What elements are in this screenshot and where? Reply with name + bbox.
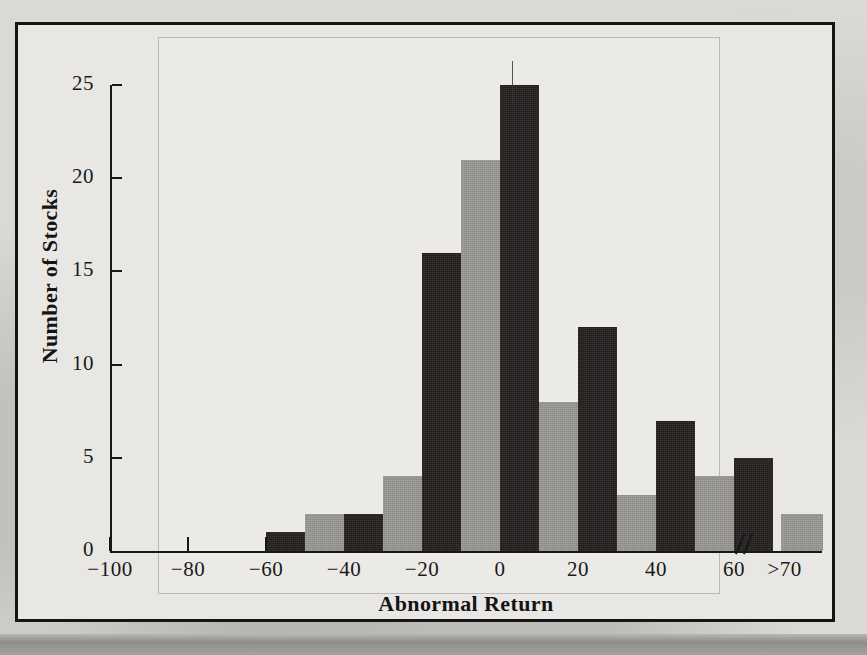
histogram-bar bbox=[305, 514, 344, 551]
x-axis-tick-label: >70 bbox=[740, 557, 830, 582]
figure-frame: 0510152025 −100−80−60−40−200204060>70 Nu… bbox=[15, 22, 835, 622]
scan-streak-artifact bbox=[512, 61, 513, 103]
histogram-bar bbox=[266, 532, 305, 551]
y-axis-tick-label: 25 bbox=[34, 71, 94, 96]
y-axis-line bbox=[110, 85, 112, 552]
x-axis-tick bbox=[265, 537, 267, 551]
x-axis-tick-label: 0 bbox=[455, 557, 545, 582]
x-axis-tick-label: 20 bbox=[533, 557, 623, 582]
histogram-plot: 0510152025 −100−80−60−40−200204060>70 Nu… bbox=[18, 25, 832, 619]
histogram-bar bbox=[344, 514, 383, 551]
x-axis-tick-label: −40 bbox=[299, 557, 389, 582]
histogram-bar bbox=[461, 160, 500, 551]
y-axis-tick-label: 5 bbox=[34, 444, 94, 469]
y-axis-title: Number of Stocks bbox=[37, 126, 63, 426]
x-axis-line bbox=[110, 551, 822, 553]
x-axis-tick-label: −80 bbox=[143, 557, 233, 582]
x-axis-tick-label: −20 bbox=[377, 557, 467, 582]
histogram-bar bbox=[781, 514, 823, 551]
y-axis-tick bbox=[112, 84, 122, 86]
page-edge-band bbox=[0, 634, 867, 655]
x-axis-tick bbox=[187, 537, 189, 551]
histogram-bar bbox=[422, 253, 461, 551]
y-axis-tick bbox=[112, 177, 122, 179]
x-axis-tick bbox=[109, 537, 111, 551]
axis-break-marker bbox=[734, 533, 758, 557]
histogram-bar bbox=[578, 327, 617, 551]
x-axis-tick-label: 40 bbox=[611, 557, 701, 582]
histogram-bar bbox=[617, 495, 656, 551]
histogram-bar bbox=[695, 476, 734, 551]
y-axis-tick bbox=[112, 457, 122, 459]
x-axis-title: Abnormal Return bbox=[110, 591, 822, 617]
x-axis-tick-label: −60 bbox=[221, 557, 311, 582]
histogram-bar bbox=[383, 476, 422, 551]
histogram-bar bbox=[656, 421, 695, 551]
histogram-bar bbox=[539, 402, 578, 551]
x-axis-tick-label: −100 bbox=[65, 557, 155, 582]
y-axis-tick bbox=[112, 270, 122, 272]
y-axis-tick bbox=[112, 364, 122, 366]
histogram-bar bbox=[500, 85, 539, 551]
